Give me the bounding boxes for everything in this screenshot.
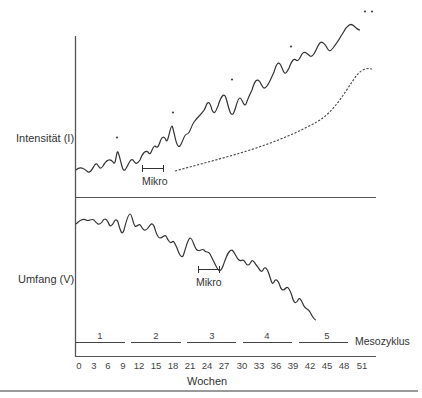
volume-curve <box>76 214 316 320</box>
x-tick: 6 <box>105 360 110 371</box>
star-marker <box>364 10 366 12</box>
x-tick: 21 <box>185 360 196 371</box>
x-tick: 48 <box>339 360 350 371</box>
mesocycle-number: 1 <box>97 330 102 341</box>
mesocycle-number: 5 <box>324 330 329 341</box>
micro-label-top: Mikro <box>142 175 168 187</box>
x-tick: 36 <box>271 360 282 371</box>
star-marker <box>371 10 373 12</box>
x-tick: 42 <box>305 360 316 371</box>
mesocycle-number: 2 <box>153 330 158 341</box>
x-tick: 3 <box>91 360 96 371</box>
star-marker <box>172 111 174 113</box>
x-tick: 30 <box>237 360 248 371</box>
x-tick: 18 <box>168 360 179 371</box>
x-tick: 24 <box>202 360 213 371</box>
x-tick: 0 <box>76 360 81 371</box>
mesocycle-label: Mesozyklus <box>355 335 410 347</box>
intensity-curve <box>76 25 360 173</box>
x-tick: 12 <box>134 360 145 371</box>
mesocycle-number: 4 <box>264 330 269 341</box>
x-tick: 33 <box>254 360 265 371</box>
x-tick: 39 <box>288 360 299 371</box>
star-marker <box>116 136 118 138</box>
intensity-axis-label: Intensität (I) <box>16 132 74 144</box>
star-marker <box>290 45 292 47</box>
x-axis-label: Wochen <box>187 375 227 387</box>
x-tick: 15 <box>151 360 162 371</box>
x-tick: 45 <box>322 360 333 371</box>
x-tick: 9 <box>120 360 125 371</box>
x-tick: 27 <box>219 360 230 371</box>
micro-bracket-top <box>143 165 164 172</box>
micro-label-bottom: Mikro <box>196 276 222 288</box>
bottom-rule <box>0 390 418 392</box>
mesocycle-number: 3 <box>209 330 214 341</box>
volume-axis-label: Umfang (V) <box>18 273 74 285</box>
intensity-trend-curve <box>175 69 372 171</box>
x-tick: 51 <box>357 360 368 371</box>
star-marker <box>231 78 233 80</box>
